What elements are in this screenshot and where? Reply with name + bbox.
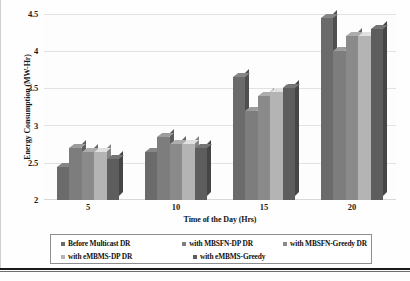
bar-20-series-0 xyxy=(321,18,333,200)
legend-swatch-icon-4 xyxy=(193,255,197,259)
x-axis-ticks: 5 10 15 20 xyxy=(44,202,396,216)
bar-20-series-2 xyxy=(346,36,358,200)
x-tick-10: 10 xyxy=(132,202,220,216)
bar-20-series-1 xyxy=(333,51,345,200)
bar-group-10 xyxy=(132,14,220,200)
x-tick-5: 5 xyxy=(44,202,132,216)
bar-face xyxy=(107,159,119,200)
bar-5-series-4 xyxy=(107,159,119,200)
bar-cluster xyxy=(321,14,383,200)
legend-label-0: Before Multicast DR xyxy=(68,239,130,248)
plot-area xyxy=(44,14,396,200)
bar-face xyxy=(358,36,370,200)
bar-side-facet xyxy=(383,21,387,196)
legend-item-embms-greedy: with eMBMS-Greedy xyxy=(193,252,303,261)
bar-face xyxy=(245,111,257,200)
bar-cluster xyxy=(145,14,207,200)
bar-20-series-4 xyxy=(371,29,383,200)
legend-swatch-icon-2 xyxy=(283,242,287,246)
bar-face xyxy=(145,152,157,200)
bar-face xyxy=(371,29,383,200)
bar-face xyxy=(283,88,295,200)
bottom-divider xyxy=(0,268,410,270)
bar-10-series-3 xyxy=(182,144,194,200)
bar-face xyxy=(270,92,282,200)
bar-group-5 xyxy=(44,14,132,200)
bar-10-series-1 xyxy=(157,137,169,200)
bar-15-series-2 xyxy=(258,96,270,200)
bar-group-15 xyxy=(220,14,308,200)
bar-face xyxy=(157,137,169,200)
y-axis-ticks: 4.5 4 3.5 3 2.5 2 xyxy=(12,14,42,200)
bar-5-series-0 xyxy=(57,167,69,200)
legend-item-before-multicast-dr: Before Multicast DR xyxy=(55,239,182,248)
x-tick-15: 15 xyxy=(220,202,308,216)
bar-10-series-0 xyxy=(145,152,157,200)
bar-cluster xyxy=(233,14,295,200)
bar-15-series-0 xyxy=(233,77,245,200)
bar-face xyxy=(321,18,333,200)
bottom-divider-secondary xyxy=(0,271,410,272)
legend-row-2: with eMBMS-DP DR with eMBMS-Greedy xyxy=(55,250,367,263)
bar-face xyxy=(258,96,270,200)
x-axis-title: Time of the Day (Hrs) xyxy=(44,215,396,224)
legend-label-3: with eMBMS-DP DR xyxy=(68,252,132,261)
bar-5-series-1 xyxy=(69,148,81,200)
y-tick-2: 2 xyxy=(12,195,38,205)
bar-face xyxy=(346,36,358,200)
bar-10-series-2 xyxy=(170,144,182,200)
legend-swatch-icon-1 xyxy=(182,242,186,246)
bar-5-series-2 xyxy=(82,152,94,200)
legend-swatch-icon-0 xyxy=(61,242,65,246)
y-tick-4: 4 xyxy=(12,46,38,56)
y-tick-2-5: 2.5 xyxy=(12,158,38,168)
y-tick-3-5: 3.5 xyxy=(12,83,38,93)
bar-face xyxy=(195,148,207,200)
bar-15-series-1 xyxy=(245,111,257,200)
legend-row-1: Before Multicast DR with MBSFN-DP DR wit… xyxy=(55,237,367,250)
bar-5-series-3 xyxy=(94,152,106,200)
bar-groups xyxy=(44,14,396,200)
legend-item-mbsfn-dp-dr: with MBSFN-DP DR xyxy=(182,239,283,248)
x-tick-20: 20 xyxy=(308,202,396,216)
y-tick-3: 3 xyxy=(12,121,38,131)
left-edge-rule xyxy=(0,0,1,270)
bar-cluster xyxy=(57,14,119,200)
bar-side-facet xyxy=(207,140,211,196)
legend-label-2: with MBSFN-Greedy DR xyxy=(290,239,367,248)
legend-swatch-icon-3 xyxy=(61,255,65,259)
legend-label-1: with MBSFN-DP DR xyxy=(189,239,253,248)
bar-15-series-4 xyxy=(283,88,295,200)
bar-face xyxy=(57,167,69,200)
chart-figure: Energy Consumption (MW-Hr) 4.5 4 3.5 3 2… xyxy=(0,0,410,281)
bar-face xyxy=(333,51,345,200)
bar-face xyxy=(233,77,245,200)
bar-side-facet xyxy=(295,80,299,196)
y-tick-4-5: 4.5 xyxy=(12,9,38,19)
bar-15-series-3 xyxy=(270,92,282,200)
legend-label-4: with eMBMS-Greedy xyxy=(200,252,265,261)
bar-face xyxy=(182,144,194,200)
chart-legend: Before Multicast DR with MBSFN-DP DR wit… xyxy=(50,234,372,264)
legend-item-embms-dp-dr: with eMBMS-DP DR xyxy=(55,252,193,261)
bar-face xyxy=(94,152,106,200)
bar-face xyxy=(69,148,81,200)
bar-face xyxy=(170,144,182,200)
bar-20-series-3 xyxy=(358,36,370,200)
bar-10-series-4 xyxy=(195,148,207,200)
bar-group-20 xyxy=(308,14,396,200)
bar-face xyxy=(82,152,94,200)
legend-item-mbsfn-greedy-dr: with MBSFN-Greedy DR xyxy=(283,239,367,248)
